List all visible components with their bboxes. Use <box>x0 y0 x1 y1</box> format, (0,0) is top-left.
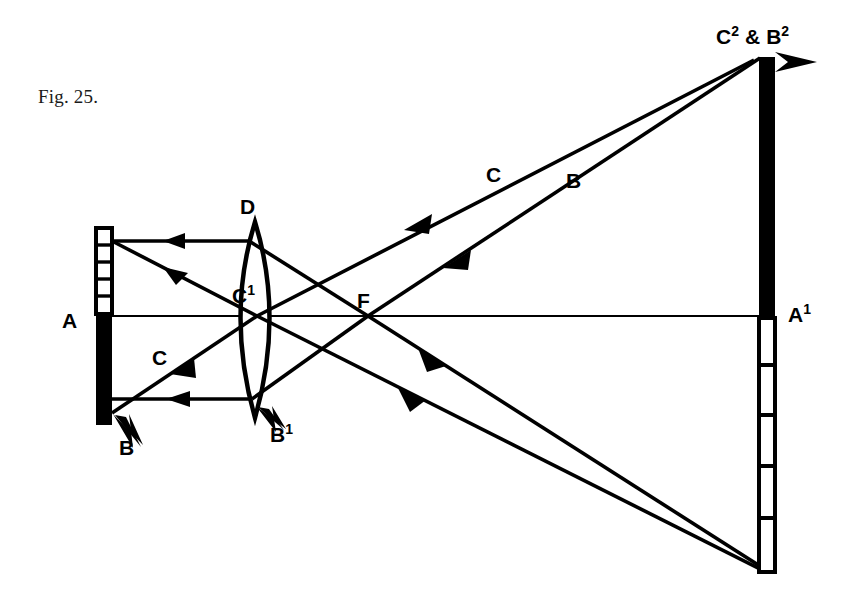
arrowhead-chief-ray-to-image-top <box>404 214 432 234</box>
label-image-axis-A1: A1 <box>788 301 811 326</box>
chief-ray-bottom-to-image-top <box>257 60 754 316</box>
arrowhead-refracted-top-to-image-bottom <box>418 348 446 372</box>
arrowhead-incident-bottom-center <box>170 358 196 378</box>
object-arrow-AB <box>96 228 112 425</box>
label-ray-C-upper: C <box>486 163 501 186</box>
image-top-arrowhead <box>775 52 817 72</box>
chief-ray-top-to-image-bottom <box>257 316 766 572</box>
label-lens-top-D: D <box>240 195 255 218</box>
arrowhead-refracted-bottom-to-image-top <box>443 250 471 270</box>
refracted-ray-F-to-image-top <box>368 58 760 316</box>
label-lens-bottom-B1: B1 <box>270 421 293 446</box>
ray-diagram-canvas: A B D C1 B1 <box>0 0 848 610</box>
arrowhead-incident-top-center <box>163 267 188 285</box>
incident-ray-top-through-center <box>112 241 257 316</box>
label-object-A: A <box>62 309 77 332</box>
label-ray-C-object: C <box>152 346 167 369</box>
label-image-top-C2-B2: C2&B2 <box>716 23 789 48</box>
label-ray-B-upper: B <box>566 169 581 192</box>
arrowhead-incident-top-parallel <box>163 233 185 249</box>
arrowhead-incident-bottom-parallel <box>166 391 190 407</box>
label-object-B: B <box>119 436 134 459</box>
label-focal-point-F: F <box>357 289 370 312</box>
arrowhead-chief-ray-to-image-bottom <box>398 388 426 412</box>
optics-figure: Fig. 25. A B <box>0 0 848 610</box>
refracted-ray-F-to-image-bottom <box>368 316 766 570</box>
